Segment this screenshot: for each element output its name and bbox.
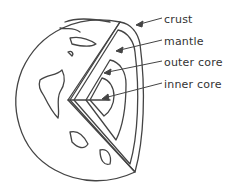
label-inner-core: inner core (164, 78, 222, 91)
label-crust: crust (164, 13, 193, 26)
label-mantle: mantle (164, 35, 204, 48)
inner-core-pointer (104, 83, 162, 98)
label-outer-core: outer core (164, 56, 223, 69)
earth-cutaway-diagram (0, 0, 226, 194)
